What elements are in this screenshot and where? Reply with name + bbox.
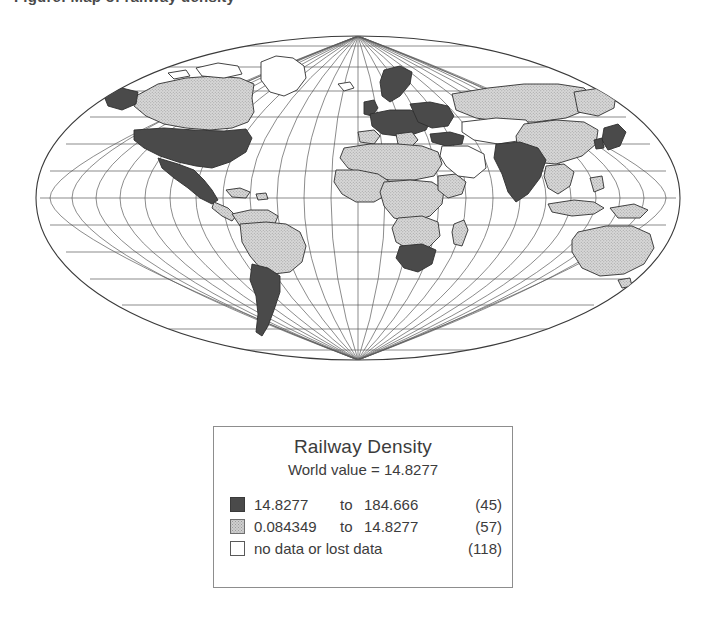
world-map-svg [18,18,698,378]
legend-range-high-value: 184.666 [364,496,442,513]
clipped-caption-text: Figure: Map of railway density [14,0,235,5]
world-map-figure [18,18,698,378]
legend-swatch-nodata [230,541,245,556]
region-korea [594,138,604,149]
legend-range-low-value-mid: 0.084349 [254,518,340,535]
legend-nodata-label: no data or lost data [254,540,456,557]
legend-subtitle: World value = 14.8277 [214,460,512,480]
legend-row-high: 14.8277 to 184.666 (45) [230,493,502,515]
legend-count-mid: (57) [456,518,502,535]
legend-range-high: 14.8277 to 184.666 [254,496,456,513]
clipped-header-strip: Figure: Map of railway density [0,0,710,10]
legend-row-mid: 0.084349 to 14.8277 (57) [230,515,502,537]
legend-swatch-high [230,497,245,512]
legend-swatch-mid [230,519,245,534]
legend-range-high-value-mid: 14.8277 [364,518,442,535]
legend-range-low-value: 14.8277 [254,496,340,513]
map-legend: Railway Density World value = 14.8277 14… [213,426,513,588]
region-new-zealand [664,258,680,280]
legend-rows: 14.8277 to 184.666 (45) 0.084349 to 14.8… [214,493,512,559]
legend-row-nodata: no data or lost data (118) [230,537,502,559]
region-caribbean-2 [256,193,268,200]
legend-count-nodata: (118) [456,540,502,557]
legend-count-high: (45) [456,496,502,513]
legend-range-mid: 0.084349 to 14.8277 [254,518,456,535]
legend-title: Railway Density [214,435,512,459]
legend-range-to-word: to [340,496,364,513]
legend-range-to-word-mid: to [340,518,364,535]
